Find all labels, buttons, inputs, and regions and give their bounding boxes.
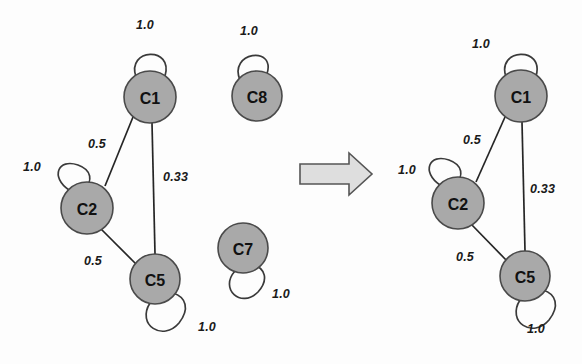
weight-label-r-edge-c1-c2: 0.5 [463, 133, 481, 147]
edge-r-c1-c5 [522, 122, 525, 251]
node-label-c1: C1 [140, 90, 161, 107]
weight-label-edge-c1-c2: 0.5 [88, 137, 106, 151]
node-label-c2: C2 [77, 201, 98, 218]
weight-label-r-edge-c1-c5: 0.33 [530, 182, 555, 196]
diagram-canvas: C1 C2 C5 C8 C7 C1 [0, 0, 582, 364]
weight-label-r-loop-c1: 1.0 [472, 37, 490, 51]
edge-c1-c2 [105, 117, 133, 186]
weight-label-loop-c2: 1.0 [23, 160, 41, 174]
node-label-r-c5: C5 [515, 269, 536, 286]
node-label-c8: C8 [247, 89, 268, 106]
weight-label-r-edge-c2-c5: 0.5 [456, 250, 474, 264]
weight-label-edge-c2-c5: 0.5 [84, 254, 102, 268]
edge-r-c2-c5 [471, 224, 508, 262]
transition-arrow-icon [300, 153, 372, 195]
weight-label-loop-c1: 1.0 [136, 18, 154, 32]
node-label-c7: C7 [233, 241, 254, 258]
weight-label-edge-c1-c5: 0.33 [163, 170, 188, 184]
node-label-r-c1: C1 [511, 89, 532, 106]
weight-label-loop-c5: 1.0 [198, 320, 216, 334]
weight-label-r-loop-c5: 1.0 [527, 322, 545, 336]
graph-svg-layer: C1 C2 C5 C8 C7 C1 [0, 0, 582, 364]
node-label-c5: C5 [145, 272, 166, 289]
transition-arrow-group [300, 153, 372, 195]
left-graph-group: C1 C2 C5 C8 C7 [58, 54, 282, 331]
weight-label-loop-c7: 1.0 [272, 287, 290, 301]
weight-label-loop-c8: 1.0 [240, 24, 258, 38]
edge-c1-c5 [152, 123, 155, 254]
edge-r-c1-c2 [476, 117, 505, 182]
node-label-r-c2: C2 [448, 196, 469, 213]
edge-c2-c5 [101, 229, 138, 266]
weight-label-r-loop-c2: 1.0 [398, 163, 416, 177]
